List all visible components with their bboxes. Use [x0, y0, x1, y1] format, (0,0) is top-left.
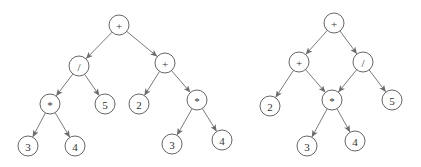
edge-arrow	[369, 70, 386, 92]
edge-arrow	[85, 74, 100, 95]
expression-tree-diagram: +/+*52*3434++/2*534	[0, 0, 421, 167]
node-label: 4	[72, 141, 78, 153]
node-times: *	[187, 90, 207, 110]
node-label: *	[329, 95, 335, 107]
edge-arrow	[306, 30, 327, 54]
node-times: *	[40, 94, 60, 114]
node-number-3: 3	[18, 136, 38, 156]
node-label: 3	[169, 139, 175, 151]
node-label: 2	[136, 99, 142, 111]
node-label: 5	[389, 95, 395, 107]
edge-arrow	[127, 31, 157, 56]
edge-arrow	[86, 32, 112, 58]
node-number-2: 2	[129, 94, 149, 114]
edge-arrow	[312, 109, 327, 137]
expression-dag-edges	[276, 30, 386, 136]
node-plus: +	[289, 52, 309, 72]
node-label: +	[116, 20, 122, 32]
expression-tree: +/+*52*3434	[18, 15, 232, 156]
node-number-4: 4	[212, 130, 232, 150]
node-times: *	[322, 90, 342, 110]
edge-arrow	[177, 109, 192, 135]
node-plus: +	[109, 15, 129, 35]
edge-arrow	[276, 70, 294, 97]
node-label: 3	[304, 141, 310, 153]
node-divide: /	[69, 56, 89, 76]
edge-arrow	[306, 70, 326, 93]
node-label: 2	[267, 101, 273, 113]
edge-arrow	[337, 109, 350, 132]
node-plus: +	[155, 53, 175, 73]
diagram-canvas: +/+*52*3434++/2*534	[0, 0, 421, 167]
node-number-5: 5	[95, 94, 115, 114]
node-label: 4	[219, 135, 225, 147]
edge-arrow	[56, 74, 73, 96]
edge-arrow	[339, 70, 357, 92]
node-number-3: 3	[162, 134, 182, 154]
expression-tree-edges	[33, 31, 217, 137]
node-label: *	[47, 99, 53, 111]
edge-arrow	[340, 31, 357, 54]
edge-arrow	[55, 113, 70, 137]
edge-arrow	[172, 71, 191, 93]
node-label: +	[331, 18, 337, 30]
node-number-5: 5	[382, 90, 402, 110]
node-label: +	[296, 57, 302, 69]
node-label: 4	[352, 136, 358, 148]
node-plus: +	[324, 13, 344, 33]
node-label: *	[194, 95, 200, 107]
node-number-4: 4	[65, 136, 85, 156]
node-number-4: 4	[345, 131, 365, 151]
node-divide: /	[353, 52, 373, 72]
edge-arrow	[145, 71, 160, 95]
node-number-2: 2	[260, 96, 280, 116]
edge-arrow	[202, 109, 216, 132]
node-number-3: 3	[297, 136, 317, 156]
node-label: 5	[102, 99, 108, 111]
edge-arrow	[33, 113, 46, 137]
node-label: 3	[25, 141, 31, 153]
node-label: +	[162, 58, 168, 70]
edges-layer	[33, 30, 386, 137]
